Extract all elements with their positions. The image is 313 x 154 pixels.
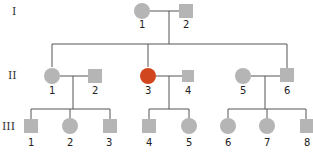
individual-i-1-female bbox=[134, 3, 150, 19]
individual-iii-4-male bbox=[142, 119, 156, 133]
individual-number: 1 bbox=[49, 85, 55, 96]
individual-ii-6-male bbox=[280, 68, 294, 82]
individual-number: 2 bbox=[183, 19, 189, 30]
mating-line-i bbox=[52, 11, 287, 68]
individual-iii-1-male bbox=[24, 119, 38, 133]
individual-iii-3-male bbox=[103, 119, 117, 133]
mating-line-ii-3-4 bbox=[149, 76, 189, 119]
individual-number: 6 bbox=[225, 137, 231, 148]
individual-iii-5-female bbox=[181, 118, 197, 134]
individual-number: 2 bbox=[67, 137, 73, 148]
individual-number: 6 bbox=[284, 85, 290, 96]
generation-label-iii: III bbox=[2, 120, 15, 133]
individual-iii-6-female bbox=[220, 118, 236, 134]
individual-number: 3 bbox=[145, 85, 151, 96]
individual-number: 3 bbox=[106, 137, 112, 148]
individual-number: 1 bbox=[28, 137, 34, 148]
individual-number: 5 bbox=[186, 137, 192, 148]
pedigree-chart: I II III 1 2 1 2 bbox=[0, 0, 313, 154]
individual-iii-7-female bbox=[259, 118, 275, 134]
individual-number: 8 bbox=[304, 137, 310, 148]
generation-label-ii: II bbox=[8, 69, 17, 82]
individual-ii-3-female-affected bbox=[140, 68, 156, 84]
individual-ii-5-female bbox=[235, 68, 251, 84]
individual-iii-2-female bbox=[62, 118, 78, 134]
individual-number: 4 bbox=[185, 85, 191, 96]
generation-label-i: I bbox=[12, 5, 16, 18]
individual-i-2-male bbox=[179, 4, 193, 18]
individual-ii-4-male bbox=[182, 70, 194, 82]
individual-number: 7 bbox=[264, 137, 270, 148]
individual-number: 2 bbox=[92, 85, 98, 96]
individual-ii-2-male bbox=[88, 69, 102, 83]
individual-iii-8-male bbox=[300, 119, 313, 133]
individual-ii-1-female bbox=[44, 68, 60, 84]
individual-number: 1 bbox=[139, 19, 145, 30]
individual-number: 5 bbox=[240, 85, 246, 96]
individual-number: 4 bbox=[146, 137, 152, 148]
